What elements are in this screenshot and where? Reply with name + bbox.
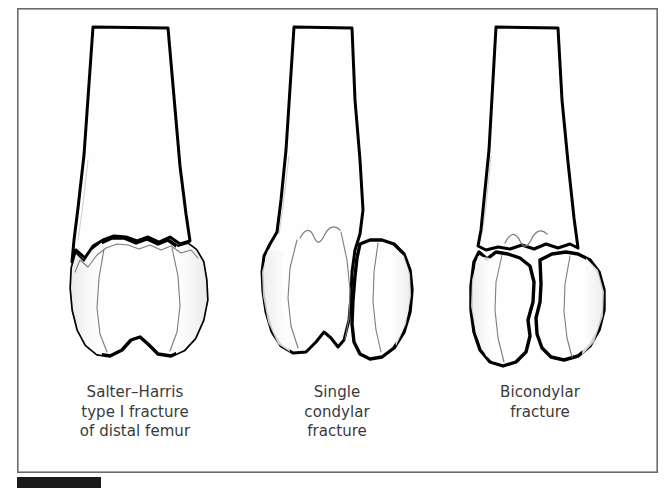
femoral-shaft-metaphysis-1 (72, 27, 190, 262)
figure-root: Salter–Harris type I fracture of distal … (0, 0, 670, 488)
page-marker-bar (17, 477, 101, 488)
caption-single-condylar: Single condylar fracture (247, 383, 427, 442)
caption-bicondylar: Bicondylar fracture (450, 383, 630, 422)
caption-salter-harris-type-1: Salter–Harris type I fracture of distal … (35, 383, 235, 442)
